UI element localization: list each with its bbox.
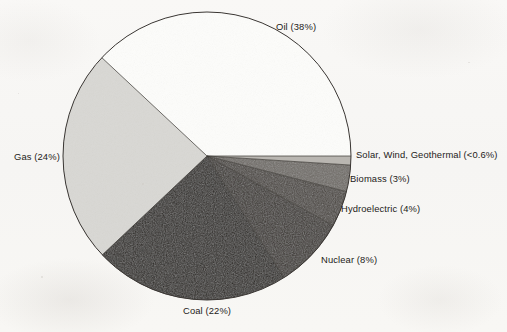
pie-label-biomass: Biomass (3%) — [350, 174, 410, 183]
chart-figure: Oil (38%) Gas (24%) Solar, Wind, Geother… — [0, 0, 507, 332]
pie-label-oil: Oil (38%) — [276, 22, 316, 31]
scan-speck — [468, 62, 470, 63]
pie-label-coal: Coal (22%) — [183, 306, 231, 315]
scan-speck — [142, 183, 144, 185]
pie-label-hydroelectric: Hydroelectric (4%) — [341, 204, 420, 213]
scan-speck — [41, 276, 43, 278]
pie-label-nuclear: Nuclear (8%) — [321, 255, 377, 264]
pie-label-gas: Gas (24%) — [14, 152, 60, 161]
scan-speck — [18, 93, 19, 94]
pie-chart — [0, 0, 507, 332]
pie-label-solar-wind-geothermal: Solar, Wind, Geothermal (<0.6%) — [356, 150, 498, 159]
